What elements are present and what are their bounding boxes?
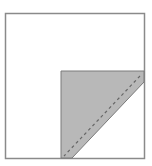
diagram-canvas xyxy=(0,0,152,166)
quilt-diagram xyxy=(0,0,152,166)
